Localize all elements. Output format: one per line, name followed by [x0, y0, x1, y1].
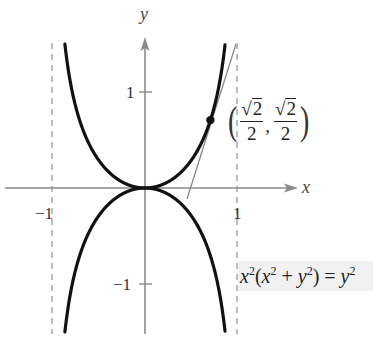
close-paren: ) — [300, 101, 309, 141]
point-label: ( √2 2 , √2 2 ) — [226, 98, 311, 144]
x-axis-label: x — [302, 178, 310, 196]
point-y-denominator: 2 — [281, 122, 291, 145]
sqrt-icon: √ — [241, 98, 251, 120]
point-x-fraction: √2 2 — [240, 98, 263, 145]
sqrt-icon: √ — [275, 98, 285, 120]
figure: y x −1 1 1 −1 ( √2 2 , √2 2 ) x2(x2 + y2… — [0, 0, 373, 346]
open-paren: ( — [228, 101, 237, 141]
point-y-fraction: √2 2 — [274, 98, 297, 145]
x-tick-label-neg1: −1 — [35, 205, 53, 222]
plot-canvas — [0, 0, 373, 346]
comma: , — [265, 115, 270, 137]
y-axis-label: y — [140, 5, 148, 23]
tangent-point-marker — [206, 116, 214, 124]
y-tick-label-neg1: −1 — [113, 276, 131, 293]
point-x-numerator: 2 — [252, 98, 263, 118]
y-tick-label-1: 1 — [126, 84, 135, 101]
x-tick-label-1: 1 — [233, 205, 242, 222]
point-y-numerator: 2 — [285, 98, 296, 118]
curve-equation: x2(x2 + y2) = y2 — [240, 264, 355, 288]
point-x-denominator: 2 — [247, 122, 257, 145]
